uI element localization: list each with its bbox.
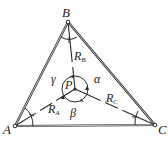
- label-ra: RA: [47, 102, 60, 117]
- label-rc-sub: C: [113, 98, 118, 106]
- arc-c: [135, 111, 138, 125]
- triangle-outline: [15, 22, 155, 126]
- label-rb-sub: B: [81, 56, 86, 64]
- triangle-diagram: B A C P RB RA RC γ α β: [0, 0, 168, 144]
- label-rc: RC: [105, 91, 118, 106]
- radii: [15, 22, 155, 126]
- vertex-a: [13, 124, 17, 128]
- triangle-inner-line: [15, 22, 155, 126]
- label-b: B: [62, 5, 70, 20]
- label-alpha: α: [94, 72, 101, 86]
- vertex-angle-arcs: [25, 37, 138, 126]
- vertex-b: [66, 20, 70, 24]
- label-p: P: [64, 78, 73, 92]
- vertex-points: [13, 20, 157, 128]
- label-a: A: [2, 122, 11, 137]
- label-ra-sub: A: [54, 109, 60, 117]
- vertex-arc-ticks: [29, 37, 137, 117]
- vertex-c: [153, 123, 157, 127]
- triangle-sides: [15, 22, 155, 126]
- label-gamma: γ: [51, 72, 56, 86]
- label-c: C: [158, 122, 167, 137]
- point-p: [73, 87, 76, 90]
- label-rb: RB: [73, 49, 86, 64]
- label-beta: β: [69, 106, 76, 120]
